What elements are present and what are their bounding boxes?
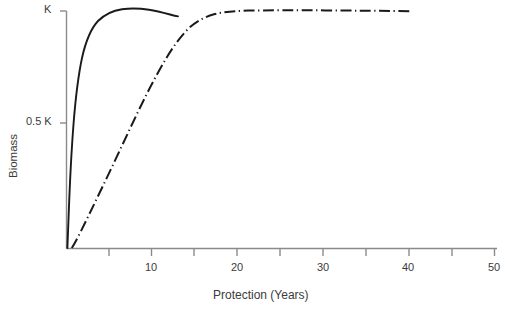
chart-plot-area	[0, 0, 505, 312]
x-tick-label-50: 50	[488, 262, 500, 273]
x-axis-ticks	[109, 249, 495, 257]
x-tick-label-20: 20	[231, 262, 243, 273]
x-tick-label-10: 10	[145, 262, 157, 273]
biomass-protection-chart: K 0.5 K 10 20 30 40 50 Biomass Protectio…	[0, 0, 505, 312]
x-axis-title: Protection (Years)	[213, 289, 309, 301]
x-tick-label-30: 30	[317, 262, 329, 273]
series-slow-recovery-dash-dot	[72, 10, 411, 248]
series-fast-recovery-solid	[67, 9, 178, 248]
x-tick-label-40: 40	[402, 262, 414, 273]
y-tick-label-k: K	[44, 4, 51, 15]
y-tick-label-half-k: 0.5 K	[26, 116, 52, 127]
y-axis-title: Biomass	[8, 134, 20, 178]
